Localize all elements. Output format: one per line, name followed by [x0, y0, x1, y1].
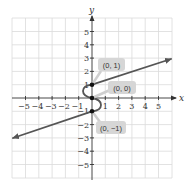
- svg-text:4: 4: [84, 41, 89, 50]
- point-0-1: [90, 82, 95, 87]
- svg-text:−2: −2: [58, 102, 70, 111]
- svg-text:1: 1: [103, 102, 108, 111]
- coordinate-plane: x y −5 −4 −3 −2 −1 1 2 3 4 5 5 4 3 2 1 −…: [0, 0, 188, 186]
- svg-text:−4: −4: [32, 102, 44, 111]
- svg-text:−4: −4: [77, 147, 89, 156]
- svg-text:5: 5: [84, 28, 89, 37]
- svg-text:−3: −3: [45, 102, 57, 111]
- svg-text:5: 5: [156, 102, 161, 111]
- point-labels: (0, 1) (0, 0) (0, −1): [96, 58, 136, 134]
- x-tick-labels: −5 −4 −3 −2 −1 1 2 3 4 5: [18, 102, 161, 111]
- svg-text:3: 3: [129, 102, 134, 111]
- point-0-neg1: [90, 109, 95, 114]
- svg-text:3: 3: [84, 54, 89, 63]
- svg-text:2: 2: [84, 67, 89, 76]
- label-0-1: (0, 1): [103, 61, 121, 70]
- point-0-0: [90, 96, 95, 101]
- svg-text:2: 2: [116, 102, 121, 111]
- svg-text:−5: −5: [77, 161, 89, 170]
- x-axis-label: x: [179, 93, 184, 103]
- label-leaders: [92, 71, 110, 122]
- svg-text:−3: −3: [77, 134, 89, 143]
- svg-text:4: 4: [143, 102, 148, 111]
- y-axis-label: y: [88, 5, 95, 15]
- label-0-0: (0, 0): [113, 84, 131, 93]
- label-0-neg1: (0, −1): [100, 124, 122, 133]
- svg-text:−5: −5: [18, 102, 30, 111]
- graph-figure: x y −5 −4 −3 −2 −1 1 2 3 4 5 5 4 3 2 1 −…: [0, 0, 188, 186]
- svg-text:−2: −2: [77, 121, 89, 130]
